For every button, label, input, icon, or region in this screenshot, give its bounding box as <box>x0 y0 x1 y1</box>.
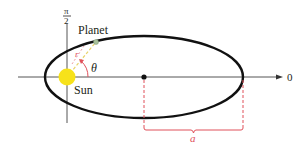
theta-label: θ <box>91 61 97 75</box>
pi-numerator-label: π <box>64 6 69 16</box>
orbit-diagram: 0 π 2 r Planet θ Sun a <box>0 0 305 147</box>
semi-major-axis-label: a <box>190 132 196 144</box>
zero-angle-label: 0 <box>287 71 293 83</box>
radius-label: r <box>75 49 79 59</box>
planet-icon <box>94 40 99 45</box>
planet-label: Planet <box>78 23 109 37</box>
pi-denominator-label: 2 <box>64 16 69 26</box>
sun-label: Sun <box>74 83 93 97</box>
ellipse-center-point <box>141 74 146 79</box>
polar-axis-arrow-icon <box>276 75 283 80</box>
sun-icon <box>59 69 76 86</box>
theta-arc <box>81 61 88 77</box>
